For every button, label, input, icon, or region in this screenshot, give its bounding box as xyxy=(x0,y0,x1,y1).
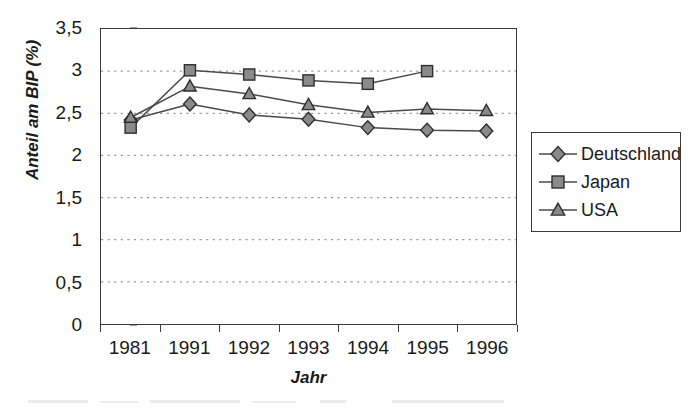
legend-item-japan[interactable]: Japan xyxy=(538,168,672,196)
x-tick-mark xyxy=(219,325,220,332)
data-point-square xyxy=(125,122,136,133)
y-tick-label: 2,5 xyxy=(56,102,82,124)
x-tick-label: 1996 xyxy=(466,337,508,359)
legend-label: USA xyxy=(578,200,618,221)
data-point-triangle xyxy=(124,111,136,122)
series-layer xyxy=(101,29,516,324)
scan-artifact xyxy=(252,401,296,403)
legend-label: Deutschland xyxy=(578,144,681,165)
x-tick-label: 1993 xyxy=(287,337,329,359)
legend-item-deutschland[interactable]: Deutschland xyxy=(538,140,672,168)
scan-artifact xyxy=(28,400,88,403)
data-point-triangle xyxy=(184,80,196,91)
data-point-square xyxy=(421,66,432,77)
plot-area xyxy=(100,28,517,325)
chart-legend: DeutschlandJapanUSA xyxy=(531,132,681,232)
data-point-diamond xyxy=(421,123,434,137)
y-tick-label: 2 xyxy=(71,144,82,166)
x-tick-label: 1991 xyxy=(168,337,210,359)
legend-marker-triangle-icon xyxy=(538,199,578,221)
data-point-diamond xyxy=(302,112,315,126)
legend-label: Japan xyxy=(578,172,630,193)
data-point-diamond xyxy=(243,108,256,122)
data-point-square xyxy=(362,78,373,89)
scan-artifact xyxy=(150,400,240,403)
chart-figure: Anteil am BIP (%) 00,511,522,533,5 19811… xyxy=(0,0,696,410)
y-tick-label: 3,5 xyxy=(56,17,82,39)
x-tick-mark xyxy=(279,325,280,332)
legend-item-usa[interactable]: USA xyxy=(538,196,672,224)
data-point-diamond xyxy=(361,121,374,135)
x-tick-mark xyxy=(338,325,339,332)
scan-artifact xyxy=(392,400,504,403)
x-tick-mark xyxy=(517,325,518,332)
x-tick-mark xyxy=(457,325,458,332)
x-tick-mark xyxy=(160,325,161,332)
x-tick-mark xyxy=(398,325,399,332)
y-axis: 00,511,522,533,5 xyxy=(30,28,92,325)
y-tick-label: 0 xyxy=(71,314,82,336)
x-tick-mark xyxy=(100,325,101,332)
legend-marker-diamond-icon xyxy=(538,143,578,165)
scan-artifact xyxy=(100,401,138,403)
legend-marker-square-icon xyxy=(538,171,578,193)
y-tick-label: 3 xyxy=(71,59,82,81)
data-point-square xyxy=(303,75,314,86)
x-axis-title: Jahr xyxy=(100,368,517,388)
y-tick-label: 1 xyxy=(71,229,82,251)
x-tick-label: 1995 xyxy=(407,337,449,359)
x-tick-label: 1992 xyxy=(228,337,270,359)
data-point-diamond xyxy=(480,124,493,138)
scan-artifact xyxy=(320,400,346,403)
x-tick-label: 1981 xyxy=(109,337,151,359)
x-axis: 1981199119921993199419951996 xyxy=(100,337,517,363)
data-point-square xyxy=(184,65,195,76)
data-point-square xyxy=(244,69,255,80)
data-point-diamond xyxy=(184,97,197,111)
y-tick-label: 0,5 xyxy=(56,272,82,294)
data-point-triangle xyxy=(421,103,433,114)
x-tick-label: 1994 xyxy=(347,337,389,359)
y-tick-label: 1,5 xyxy=(56,187,82,209)
